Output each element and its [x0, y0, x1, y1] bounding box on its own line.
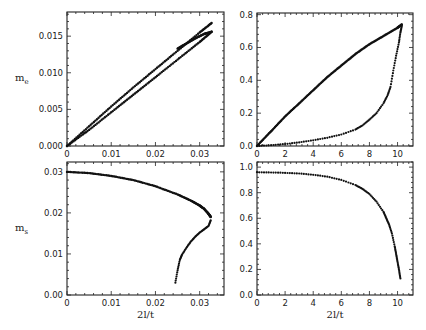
x-tick-label: 4: [311, 149, 316, 159]
y-tick-label: 0.6: [239, 42, 253, 52]
x-tick-label: 6: [339, 149, 344, 159]
y-tick-label: 0.000: [39, 141, 63, 151]
y-tick-label: 0.0: [239, 290, 253, 300]
x-tick-label: 0.02: [146, 149, 165, 159]
y-tick-label: 0.6: [239, 213, 253, 223]
y-tick-label: 0.03: [44, 167, 63, 177]
y-tick-label: 1.0: [239, 162, 253, 172]
y-tick-label: 0.015: [39, 31, 63, 41]
x-tick-label: 8: [367, 149, 372, 159]
y-tick-label: 0.8: [239, 188, 253, 198]
y-tick-label: 0.02: [44, 208, 63, 218]
x-tick-label: 10: [392, 298, 403, 308]
y-tick-label: 0.010: [39, 68, 63, 78]
series-lower-branch: [174, 219, 212, 284]
y-tick-label: 0.8: [239, 10, 253, 20]
plot-frame: [67, 162, 224, 295]
panel-top-left: 00.010.020.030.0000.0050.0100.015me: [15, 12, 224, 159]
x-tick-label: 0: [254, 149, 259, 159]
x-axis-label: 2l/t: [327, 309, 344, 320]
y-tick-label: 0.005: [39, 104, 63, 114]
x-tick-label: 0.01: [102, 149, 121, 159]
series-lower-curve: [256, 25, 403, 147]
panel-bottom-right: 02468100.00.20.40.60.81.02l/t: [239, 162, 413, 320]
y-tick-label: 0.01: [44, 249, 63, 259]
y-tick-label: 0.2: [239, 264, 253, 274]
y-tick-label: 0.4: [239, 75, 253, 85]
x-tick-label: 0: [254, 298, 259, 308]
x-tick-label: 0: [64, 149, 69, 159]
panel-bottom-left: 00.010.020.030.000.010.020.03ms2l/t: [15, 162, 224, 320]
y-tick-label: 0.4: [239, 239, 253, 249]
y-tick-label: 0.2: [239, 108, 253, 118]
x-tick-label: 0.03: [190, 149, 209, 159]
panel-top-right: 02468100.00.20.40.60.8: [239, 10, 413, 159]
x-tick-label: 0.03: [190, 298, 209, 308]
x-tick-label: 0.01: [102, 298, 121, 308]
x-tick-label: 0: [64, 298, 69, 308]
x-tick-label: 4: [311, 298, 316, 308]
x-tick-label: 2: [282, 298, 287, 308]
series-lower-branch: [66, 31, 213, 148]
x-tick-label: 10: [392, 149, 403, 159]
x-tick-label: 8: [367, 298, 372, 308]
figure-grid: 00.010.020.030.0000.0050.0100.015me02468…: [0, 0, 426, 330]
y-tick-label: 0.0: [239, 141, 253, 151]
x-axis-label: 2l/t: [137, 309, 154, 320]
y-axis-label: ms: [15, 222, 28, 236]
y-axis-label: me: [15, 72, 29, 86]
x-tick-label: 0.02: [146, 298, 165, 308]
series-upper-branch: [66, 171, 212, 219]
x-tick-label: 2: [282, 149, 287, 159]
series-curve: [256, 171, 402, 279]
series-upper-curve: [256, 23, 403, 147]
x-tick-label: 6: [339, 298, 344, 308]
y-tick-label: 0.00: [44, 290, 63, 300]
